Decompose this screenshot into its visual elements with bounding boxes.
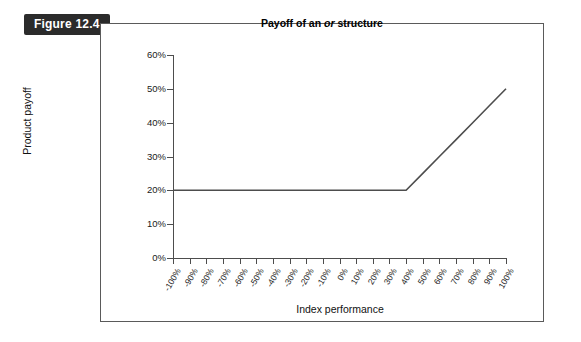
payoff-line-series — [0, 0, 581, 342]
